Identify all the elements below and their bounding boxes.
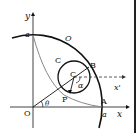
label-y: y (24, 11, 31, 21)
theta-arc (41, 101, 43, 107)
frame-border (134, 0, 136, 133)
diagram: y a O C C B x' α P θ A O a x (0, 0, 138, 133)
label-A: A (100, 97, 107, 106)
label-big-circle: O (65, 34, 72, 43)
x-prime-arrow-icon (122, 75, 126, 79)
label-small-circle: C (55, 56, 61, 65)
label-center: C (70, 70, 76, 79)
label-x-prime: x' (114, 83, 121, 92)
x-axis-arrow-icon (126, 105, 130, 109)
label-P: P (62, 95, 68, 104)
label-a-x: a (102, 110, 107, 119)
label-x: x (117, 109, 122, 119)
geometry-figure: y a O C C B x' α P θ A O a x (0, 0, 138, 133)
label-origin: O (24, 109, 31, 118)
label-B: B (90, 61, 96, 70)
y-axis-arrow-icon (31, 12, 35, 16)
label-a-y: a (25, 30, 30, 39)
traced-curve (33, 35, 102, 107)
label-alpha: α (78, 81, 84, 90)
